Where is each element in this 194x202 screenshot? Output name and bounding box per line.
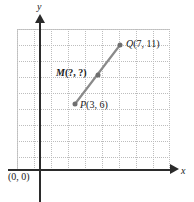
- x-axis-arrow-icon: [170, 164, 179, 174]
- point-p: [73, 102, 78, 107]
- point-q: [118, 43, 123, 48]
- origin-label: (0, 0): [8, 172, 30, 182]
- point-m-label: M(?, ?): [56, 68, 87, 78]
- y-axis-label: y: [37, 2, 41, 12]
- y-axis-arrow-icon: [35, 14, 45, 23]
- point-p-label: P(3, 6): [80, 100, 108, 110]
- point-q-label: Q(7, 11): [126, 39, 160, 49]
- x-axis: [8, 169, 173, 171]
- y-axis: [39, 22, 41, 202]
- midpoint-figure: x y Q(7, 11) M(?, ?) P(3, 6) (0, 0): [0, 0, 194, 202]
- point-m: [96, 73, 101, 78]
- x-axis-label: x: [181, 166, 185, 176]
